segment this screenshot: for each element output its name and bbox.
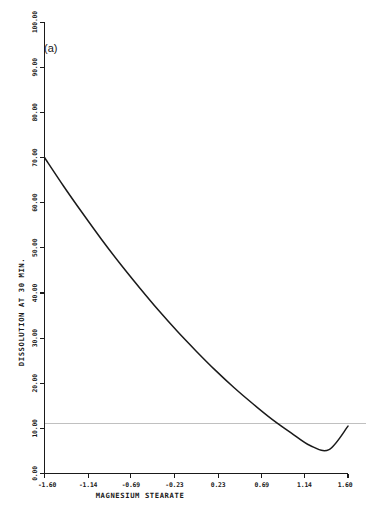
x-tick-label: 1.60 — [338, 481, 353, 489]
y-axis-title: DISSOLUTION AT 30 MIN. — [17, 258, 26, 366]
y-tick-label: 70.00 — [31, 148, 39, 167]
x-tick-label: 0.23 — [211, 481, 226, 489]
y-axis-tick-labels: 0.00 10.00 20.00 30.00 40.00 50.00 60.00… — [31, 11, 39, 481]
x-tick-label: 1.14 — [297, 481, 312, 489]
x-tick-label: -1.60 — [38, 481, 57, 489]
y-tick-label: 30.00 — [31, 329, 39, 348]
x-tick-label: -1.14 — [79, 481, 98, 489]
y-tick-label: 80.00 — [31, 103, 39, 122]
y-tick-label: 60.00 — [31, 193, 39, 212]
x-axis-title: MAGNESIUM STEARATE — [96, 491, 185, 500]
figure-panel-a: 0.00 10.00 20.00 30.00 40.00 50.00 60.00… — [0, 0, 368, 515]
panel-label: (a) — [44, 42, 57, 54]
dissolution-response-chart: 0.00 10.00 20.00 30.00 40.00 50.00 60.00… — [0, 0, 368, 515]
y-tick-label: 0.00 — [31, 466, 39, 481]
y-tick-label: 20.00 — [31, 374, 39, 393]
y-tick-label: 50.00 — [31, 238, 39, 257]
y-tick-label: 90.00 — [31, 58, 39, 77]
x-axis-ticks — [45, 474, 349, 479]
y-tick-label: 100.00 — [31, 11, 39, 33]
y-tick-label: 40.00 — [31, 284, 39, 303]
x-axis-tick-labels: -1.60 -1.14 -0.69 -0.23 0.23 0.69 1.14 1… — [38, 481, 353, 489]
y-axis-ticks — [40, 22, 45, 473]
x-tick-label: -0.23 — [165, 481, 184, 489]
response-curve — [45, 158, 349, 451]
x-tick-label: -0.69 — [122, 481, 141, 489]
x-tick-label: 0.69 — [254, 481, 269, 489]
y-tick-label: 10.00 — [31, 419, 39, 438]
